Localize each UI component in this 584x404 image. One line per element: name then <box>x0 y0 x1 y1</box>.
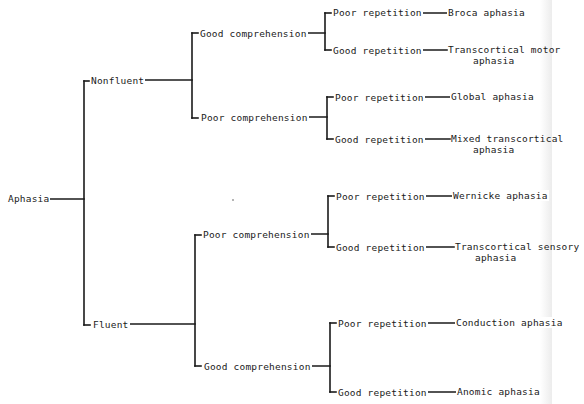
result-line-1: Transcortical sensory <box>455 241 584 252</box>
result-line-2: aphasia <box>455 252 584 263</box>
node-fluent-good-comprehension: Good comprehension <box>203 361 312 372</box>
node-nonfluent: Nonfluent <box>90 75 145 86</box>
result-line-2: aphasia <box>448 55 566 66</box>
node-f-pc-poor-repetition: Poor repetition <box>335 191 426 202</box>
node-nonfluent-good-comprehension: Good comprehension <box>199 28 308 39</box>
node-f-pc-good-repetition: Good repetition <box>335 242 426 253</box>
result-broca-aphasia: Broca aphasia <box>447 7 526 18</box>
result-global-aphasia: Global aphasia <box>450 91 535 102</box>
node-f-gc-good-repetition: Good repetition <box>337 387 428 398</box>
result-line-2: aphasia <box>451 144 571 155</box>
node-nf-pc-good-repetition: Good repetition <box>334 134 425 145</box>
node-nf-gc-good-repetition: Good repetition <box>332 45 423 56</box>
node-nf-pc-poor-repetition: Poor repetition <box>334 92 425 103</box>
result-transcortical-sensory-aphasia: Transcortical sensory aphasia <box>454 241 584 263</box>
result-conduction-aphasia: Conduction aphasia <box>455 317 564 328</box>
node-aphasia: Aphasia <box>7 193 50 204</box>
node-fluent: Fluent <box>92 319 130 330</box>
node-f-gc-poor-repetition: Poor repetition <box>337 318 428 329</box>
result-line-1: Mixed transcortical <box>451 133 571 144</box>
result-anomic-aphasia: Anomic aphasia <box>456 386 541 397</box>
stray-mark <box>232 199 234 201</box>
result-transcortical-motor-aphasia: Transcortical motor aphasia <box>447 44 567 66</box>
result-mixed-transcortical-aphasia: Mixed transcortical aphasia <box>450 133 572 155</box>
node-fluent-poor-comprehension: Poor comprehension <box>202 229 311 240</box>
node-nf-gc-poor-repetition: Poor repetition <box>332 7 423 18</box>
result-line-1: Transcortical motor <box>448 44 566 55</box>
result-wernicke-aphasia: Wernicke aphasia <box>452 190 549 201</box>
node-nonfluent-poor-comprehension: Poor comprehension <box>200 112 309 123</box>
